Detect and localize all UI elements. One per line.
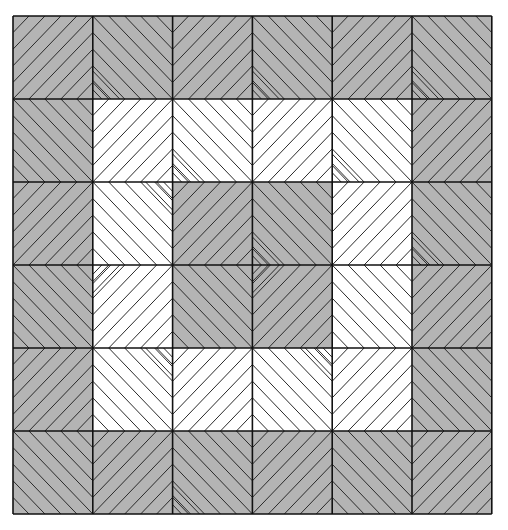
tile-0-2 — [173, 16, 253, 99]
tile-4-1 — [93, 348, 173, 431]
tile-4-2 — [173, 348, 253, 431]
tile-1-5 — [412, 99, 492, 182]
tile-1-3 — [252, 99, 332, 182]
tile-2-3 — [252, 182, 332, 265]
tile-3-2 — [173, 265, 253, 348]
tile-2-0 — [13, 182, 93, 265]
tile-5-4 — [332, 431, 412, 514]
tile-2-1 — [93, 182, 173, 265]
tile-3-5 — [412, 265, 492, 348]
tile-5-1 — [93, 431, 173, 514]
tile-4-0 — [13, 348, 93, 431]
tile-3-3 — [252, 265, 332, 348]
tile-3-1 — [93, 265, 173, 348]
tile-3-0 — [13, 265, 93, 348]
tile-2-4 — [332, 182, 412, 265]
tile-3-4 — [332, 265, 412, 348]
tile-0-4 — [332, 16, 412, 99]
tile-1-4 — [332, 99, 412, 182]
tile-2-2 — [173, 182, 253, 265]
tile-2-5 — [412, 182, 492, 265]
tile-1-2 — [173, 99, 253, 182]
tile-4-4 — [332, 348, 412, 431]
tile-4-3 — [252, 348, 332, 431]
tile-5-2 — [173, 431, 253, 514]
tile-1-0 — [13, 99, 93, 182]
tile-1-1 — [93, 99, 173, 182]
tile-0-1 — [93, 16, 173, 99]
tile-0-0 — [13, 16, 93, 99]
tile-5-3 — [252, 431, 332, 514]
tile-4-5 — [412, 348, 492, 431]
tile-5-5 — [412, 431, 492, 514]
quilt-pattern — [0, 0, 508, 530]
tile-0-3 — [252, 16, 332, 99]
tile-5-0 — [13, 431, 93, 514]
tile-0-5 — [412, 16, 492, 99]
